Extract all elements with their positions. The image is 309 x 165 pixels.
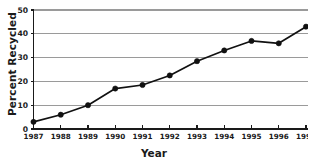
x-tick-label: 1993 — [187, 132, 207, 141]
data-markers — [31, 24, 308, 124]
x-tick-label: 1995 — [241, 132, 261, 141]
data-point-marker — [140, 82, 145, 87]
y-tick-label: 50 — [17, 6, 28, 15]
x-tick-label: 1990 — [105, 132, 125, 141]
data-point-marker — [113, 86, 118, 91]
x-tick-label: 1997 — [296, 132, 308, 141]
x-tick-label: 1988 — [51, 132, 71, 141]
data-point-marker — [249, 38, 254, 43]
x-tick-label: 1996 — [269, 132, 289, 141]
axis-lines — [34, 10, 309, 129]
x-tick-label: 1987 — [23, 132, 43, 141]
data-point-marker — [276, 41, 281, 46]
x-tick-label: 1994 — [214, 132, 234, 141]
x-tick-labels: 1987198819891990199119921993199419951996… — [23, 132, 308, 141]
plot-area: 01020304050 1987198819891990199119921993… — [0, 0, 308, 165]
data-point-marker — [222, 48, 227, 53]
y-tick-label: 10 — [17, 101, 28, 110]
data-point-marker — [167, 73, 172, 78]
y-tick-label: 20 — [17, 77, 28, 86]
x-tick-label: 1989 — [78, 132, 98, 141]
data-point-marker — [85, 103, 90, 108]
recycling-line-chart: Percent Recycled 01020304050 19871988198… — [0, 0, 308, 165]
y-tick-labels: 01020304050 — [17, 6, 28, 134]
x-tick-label: 1991 — [132, 132, 152, 141]
data-point-marker — [31, 119, 36, 124]
data-point-marker — [303, 24, 308, 29]
data-point-marker — [58, 112, 63, 117]
gridlines — [34, 10, 309, 129]
data-point-marker — [194, 59, 199, 64]
y-tick-label: 40 — [17, 29, 28, 38]
y-tick-label: 30 — [17, 53, 28, 62]
x-axis-title: Year — [0, 147, 308, 159]
x-tick-label: 1992 — [160, 132, 180, 141]
